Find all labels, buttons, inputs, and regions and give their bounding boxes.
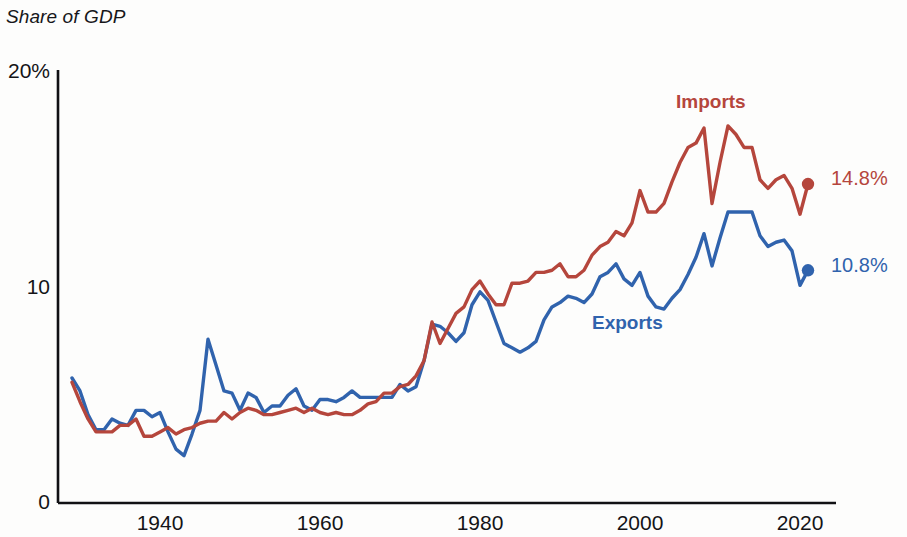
x-tick-label-2: 1980 <box>435 511 525 535</box>
x-tick-label-0: 1940 <box>115 511 205 535</box>
chart-series-group <box>72 126 814 456</box>
x-tick-label-4: 2020 <box>755 511 845 535</box>
y-tick-label-1: 10 <box>27 275 50 299</box>
endpoint-dot-imports <box>802 178 814 190</box>
line-chart-plot <box>0 0 907 537</box>
chart-container: Share of GDP 20%100 19401960198020002020… <box>0 0 907 537</box>
endpoint-dot-exports <box>802 264 814 276</box>
y-tick-label-0: 20% <box>8 59 50 83</box>
series-label-exports: Exports <box>592 312 663 334</box>
x-tick-label-1: 1960 <box>275 511 365 535</box>
x-tick-label-3: 2000 <box>595 511 685 535</box>
end-value-exports: 10.8% <box>831 254 888 277</box>
series-line-imports <box>72 126 808 436</box>
y-tick-label-2: 0 <box>38 490 50 514</box>
end-value-imports: 14.8% <box>831 167 888 190</box>
chart-axes <box>58 70 836 503</box>
series-line-exports <box>72 212 808 456</box>
series-label-imports: Imports <box>676 91 746 113</box>
